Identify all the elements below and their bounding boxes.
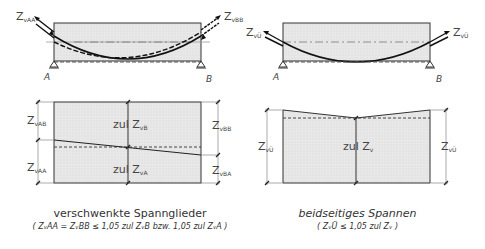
caption-left-title: verschwenkte Spannglieder (20, 207, 240, 220)
label-z-vU-top-left: ZvÜ (246, 26, 262, 39)
support-b-label: B (206, 74, 212, 84)
force-diagram-left: ZvAB ZvAA ZvBB ZvBA zul ZvB zul ZvA (27, 100, 232, 185)
label-z-vAA: ZvAA (27, 161, 47, 174)
caption-right: beidseitiges Spannen ( ZᵥÜ ≤ 1,05 zul Zᵥ… (250, 207, 465, 231)
label-z-vBA: ZvBA (212, 164, 232, 177)
caption-left-sub: ( ZᵥAA = ZᵥBB ≤ 1,05 zul ZᵥB bzw. 1,05 z… (20, 222, 240, 231)
beam-left-top: ZvAA ZvBB A B (16, 10, 243, 84)
label-z-vBB-top: ZvBB (224, 10, 243, 23)
force-diagram-right: ZvÜ ZvÜ zul Zv (258, 108, 457, 185)
support-a-label-right: A (272, 72, 279, 82)
caption-left: verschwenkte Spannglieder ( ZᵥAA = ZᵥBB … (20, 207, 240, 231)
label-z-vBB: ZvBB (212, 119, 231, 132)
label-z-vU-top-right: ZvÜ (453, 26, 469, 39)
label-z-vU-right: ZvÜ (441, 140, 457, 153)
label-zul-z-v: zul Zv (343, 140, 374, 153)
label-z-vAA-top: ZvAA (16, 10, 36, 23)
label-z-vAB: ZvAB (27, 114, 46, 127)
caption-right-title: beidseitiges Spannen (250, 207, 465, 220)
support-b-label-right: B (436, 74, 442, 84)
caption-right-sub: ( ZᵥÜ ≤ 1,05 zul Zᵥ ) (250, 222, 465, 231)
support-a-label: A (43, 72, 50, 82)
beam-right-top: ZvÜ ZvÜ A B (246, 23, 469, 84)
label-z-vU-left: ZvÜ (258, 140, 274, 153)
